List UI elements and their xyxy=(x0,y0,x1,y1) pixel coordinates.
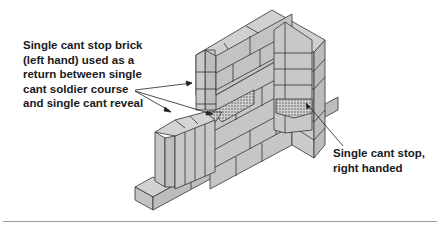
annotation-line: return between single xyxy=(23,67,143,82)
annotation-line: Single cant stop, xyxy=(333,146,425,161)
annotation-line: (left hand) used as a xyxy=(23,53,143,68)
annotation-line: Single cant stop brick xyxy=(23,38,143,53)
brickwork-diagram xyxy=(0,0,440,227)
annotation-left-cant-stop-brick: Single cant stop brick (left hand) used … xyxy=(23,38,143,111)
annotation-line: and single cant reveal xyxy=(23,96,143,111)
annotation-line: cant soldier course xyxy=(23,82,143,97)
annotation-right-cant-stop: Single cant stop, right handed xyxy=(333,146,425,175)
bottom-divider xyxy=(3,221,437,222)
annotation-line: right handed xyxy=(333,161,425,176)
